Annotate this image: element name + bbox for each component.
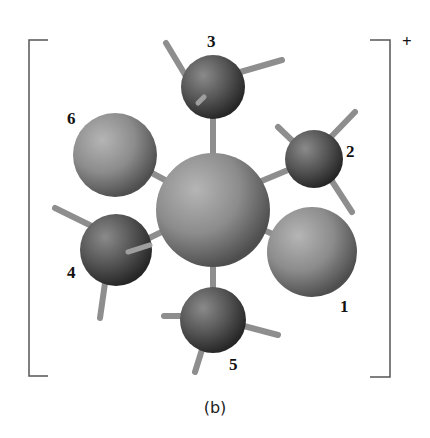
label-atom-5: 5: [229, 356, 238, 373]
molecule-svg: [0, 0, 430, 438]
atom-2-carbon: [285, 130, 343, 188]
label-atom-3: 3: [207, 33, 216, 50]
label-atom-1: 1: [340, 298, 349, 315]
atom-5-carbon: [180, 287, 246, 353]
label-atom-4: 4: [67, 264, 76, 281]
figure-caption: (b): [0, 398, 430, 417]
atom-3-carbon: [181, 55, 245, 119]
molecule-diagram: 3 6 2 4 1 5 + (b): [0, 0, 430, 438]
charge-label: +: [402, 32, 412, 52]
central-atom: [156, 153, 270, 267]
left-bracket: [29, 40, 48, 376]
label-atom-2: 2: [346, 143, 355, 160]
right-bracket: [370, 40, 390, 377]
label-atom-6: 6: [67, 110, 76, 127]
atom-1: [267, 207, 357, 297]
atom-6: [73, 113, 157, 197]
